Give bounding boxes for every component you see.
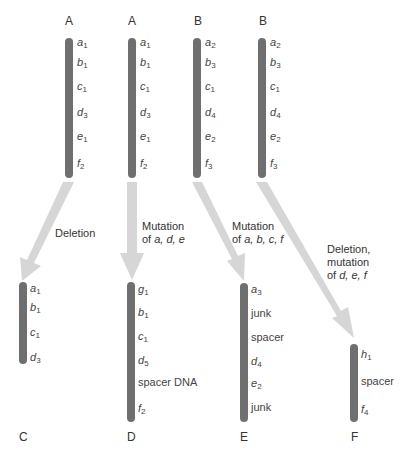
gene-label: c1	[30, 326, 40, 340]
gene-label: g1	[138, 283, 149, 297]
gene-label: b1	[77, 56, 88, 70]
gene-label: f2	[140, 157, 148, 171]
gene-label: c1	[140, 80, 150, 94]
gene-label: b3	[270, 56, 281, 70]
gene-label: e1	[77, 130, 88, 144]
gene-label: a2	[270, 36, 281, 50]
caption-line: Deletion	[55, 227, 95, 239]
chromosome-label-A1: A	[65, 14, 73, 28]
gene-label: c1	[138, 330, 148, 344]
gene-label: spacer	[251, 331, 284, 343]
gene-label: f4	[361, 403, 369, 417]
caption-mutation-abcf: Mutation of a, b, c, f	[232, 220, 283, 246]
arrow-mutation-ade	[120, 182, 144, 280]
caption-line: mutation	[327, 256, 370, 269]
gene-label: a3	[251, 283, 262, 297]
gene-label: b1	[140, 56, 151, 70]
caption-deletion-mutation-def: Deletion, mutation of d, e, f	[327, 243, 370, 282]
caption-line: Deletion,	[327, 243, 370, 256]
gene-label: b1	[30, 301, 41, 315]
gene-label: d4	[205, 106, 216, 120]
caption-line: of a, b, c, f	[232, 233, 283, 246]
gene-label: f3	[270, 157, 278, 171]
chromosome-label-E: E	[240, 430, 248, 444]
gene-label: a1	[77, 36, 88, 50]
gene-label: d4	[251, 355, 262, 369]
gene-label: h1	[361, 348, 372, 362]
gene-label: c1	[205, 80, 215, 94]
chromosome-bar-A1	[65, 38, 73, 178]
gene-label: d4	[270, 106, 281, 120]
chromosome-label-A2: A	[128, 14, 136, 28]
chromosome-bar-D	[127, 282, 135, 422]
gene-label: spacer	[361, 375, 394, 387]
gene-label: d3	[77, 106, 88, 120]
chromosome-bar-B1	[193, 38, 201, 178]
caption-line: Mutation	[232, 220, 283, 233]
gene-label: b1	[138, 306, 149, 320]
chromosome-bar-B2	[258, 38, 266, 178]
caption-deletion: Deletion	[55, 227, 95, 240]
gene-label: d3	[140, 106, 151, 120]
chromosome-label-C: C	[19, 430, 28, 444]
chromosome-bar-C	[19, 282, 27, 364]
gene-label: junk	[251, 307, 271, 319]
gene-label: f2	[77, 157, 85, 171]
chromosome-label-F: F	[351, 430, 358, 444]
chromosome-label-D: D	[127, 430, 136, 444]
caption-mutation-ade: Mutation of a, d, e	[142, 220, 185, 246]
caption-line: Mutation	[142, 220, 185, 233]
chromosome-label-B2: B	[259, 14, 267, 28]
chromosome-bar-E	[240, 283, 248, 422]
gene-label: f3	[205, 157, 213, 171]
gene-label: d5	[138, 354, 149, 368]
gene-label: f2	[138, 402, 146, 416]
caption-line: of d, e, f	[327, 269, 370, 282]
gene-label: a1	[30, 282, 41, 296]
gene-label: c1	[270, 80, 280, 94]
caption-line: of a, d, e	[142, 233, 185, 246]
gene-label: e1	[140, 130, 151, 144]
gene-label: d3	[30, 351, 41, 365]
gene-label: spacer DNA	[138, 376, 197, 388]
gene-label: b3	[205, 56, 216, 70]
chromosome-bar-F	[350, 344, 358, 422]
gene-label: c1	[77, 80, 87, 94]
gene-label: a2	[205, 36, 216, 50]
gene-label: e2	[270, 130, 281, 144]
gene-label: a1	[140, 36, 151, 50]
gene-label: junk	[251, 401, 271, 413]
gene-label: e2	[205, 130, 216, 144]
gene-label: e2	[251, 377, 262, 391]
chromosome-bar-A2	[128, 38, 136, 178]
chromosome-label-B1: B	[194, 14, 202, 28]
